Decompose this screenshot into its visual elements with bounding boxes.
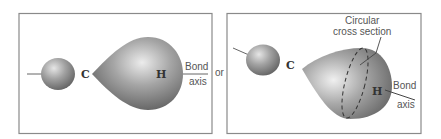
bond-axis-label-line1: Bond bbox=[393, 80, 416, 91]
sigma-orbital-lobe bbox=[302, 48, 392, 119]
sigma-orbital-lobe bbox=[92, 37, 183, 110]
bond-axis-label-line2: axis bbox=[189, 76, 207, 87]
carbon-label: C bbox=[286, 59, 295, 72]
cross-section-label-line2: cross section bbox=[333, 26, 391, 37]
panel-side-view: C H Bond axis bbox=[19, 14, 212, 134]
hydrogen-label: H bbox=[372, 85, 382, 98]
carbon-label: C bbox=[81, 68, 90, 81]
bond-axis-label-line2: axis bbox=[397, 99, 415, 110]
bond-line-left bbox=[233, 48, 249, 55]
panel-perspective-view: C H Circular cross section Bond axis bbox=[227, 14, 421, 134]
cross-section-label-line1: Circular bbox=[345, 15, 380, 26]
sigma-bond-diagram: C H Bond axis or C H Circular cross sect… bbox=[0, 0, 441, 139]
hydrogen-label: H bbox=[156, 68, 166, 81]
carbon-orbital-small-lobe bbox=[246, 45, 280, 76]
bond-axis-label-line1: Bond bbox=[185, 61, 208, 72]
carbon-orbital-small-lobe bbox=[41, 58, 75, 90]
or-separator: or bbox=[215, 67, 225, 78]
